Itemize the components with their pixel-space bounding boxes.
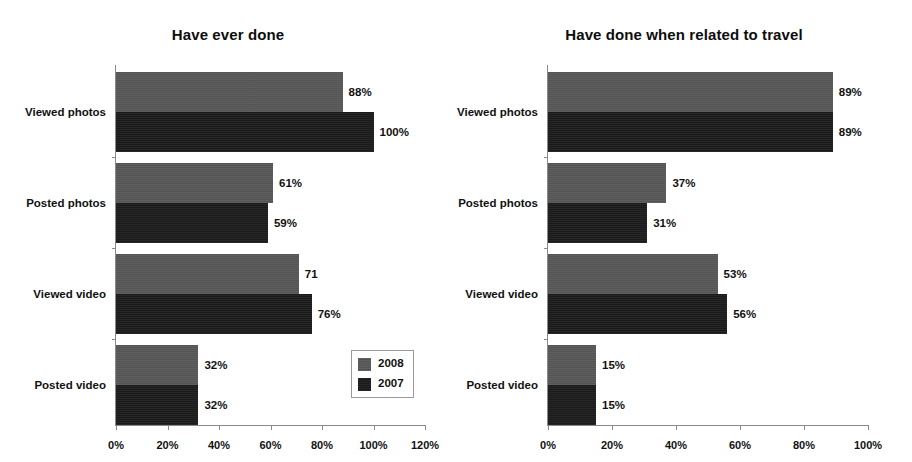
- bar-value-label: 31%: [653, 218, 676, 230]
- chart-title: Have ever done: [0, 26, 456, 43]
- chart-panel-have-ever-done: Have ever done 0%20%40%60%80%100%120%88%…: [0, 0, 456, 462]
- bar-2007-viewed-video[interactable]: [116, 294, 312, 334]
- bar-value-label: 76%: [318, 309, 341, 321]
- bar-2008-viewed-video[interactable]: [548, 254, 718, 294]
- category-label-posted-photos: Posted photos: [26, 198, 106, 210]
- bar-value-label: 32%: [204, 360, 227, 372]
- x-axis-tick-label: 0%: [108, 439, 124, 451]
- bar-value-label: 15%: [602, 400, 625, 412]
- bar-value-label: 100%: [380, 127, 409, 139]
- category-label-posted-video: Posted video: [34, 380, 106, 392]
- bar-value-label: 53%: [724, 269, 747, 281]
- x-axis-tick: [740, 425, 741, 430]
- x-axis-tick: [868, 425, 869, 430]
- bar-2007-posted-video[interactable]: [548, 385, 596, 425]
- bar-group: 89%89%: [548, 72, 868, 152]
- bar-2008-posted-video[interactable]: [116, 345, 198, 385]
- legend: 2008 2007: [351, 350, 414, 398]
- bar-value-label: 15%: [602, 360, 625, 372]
- category-label-viewed-video: Viewed video: [465, 289, 538, 301]
- x-axis-tick: [612, 425, 613, 430]
- x-axis-tick: [322, 425, 323, 430]
- x-axis-tick-label: 120%: [411, 439, 439, 451]
- y-axis-tick: [112, 248, 116, 249]
- x-axis-tick-label: 60%: [259, 439, 281, 451]
- bar-value-label: 37%: [672, 178, 695, 190]
- category-label-viewed-photos: Viewed photos: [457, 107, 538, 119]
- bar-2008-posted-video[interactable]: [548, 345, 596, 385]
- legend-label-2008: 2008: [378, 358, 404, 370]
- x-axis-tick: [374, 425, 375, 430]
- bar-value-label: 89%: [839, 127, 862, 139]
- bar-2008-viewed-photos[interactable]: [116, 72, 343, 112]
- y-axis-tick: [544, 248, 548, 249]
- bar-2008-posted-photos[interactable]: [548, 163, 666, 203]
- y-axis-tick: [544, 339, 548, 340]
- bar-value-label: 89%: [839, 87, 862, 99]
- bar-2008-posted-photos[interactable]: [116, 163, 273, 203]
- x-axis-tick-label: 40%: [208, 439, 230, 451]
- chart-panel-have-done-when-related-to-travel: Have done when related to travel 0%20%40…: [456, 0, 912, 462]
- bar-group: 53%56%: [548, 254, 868, 334]
- y-axis-tick: [112, 339, 116, 340]
- bar-2007-posted-photos[interactable]: [548, 203, 647, 243]
- x-axis-tick-label: 100%: [359, 439, 387, 451]
- x-axis-tick-label: 60%: [729, 439, 751, 451]
- x-axis-tick-label: 20%: [601, 439, 623, 451]
- bar-value-label: 56%: [733, 309, 756, 321]
- x-axis-tick-label: 40%: [665, 439, 687, 451]
- x-axis-tick-label: 20%: [156, 439, 178, 451]
- legend-swatch-2008-icon: [358, 358, 371, 371]
- plot-area: 0%20%40%60%80%100%89%89%37%31%53%56%15%1…: [548, 65, 868, 425]
- bar-group: 88%100%: [116, 72, 425, 152]
- bar-value-label: 59%: [274, 218, 297, 230]
- x-axis-tick: [116, 425, 117, 430]
- bar-value-label: 88%: [349, 87, 372, 99]
- x-axis-tick: [219, 425, 220, 430]
- bar-2007-viewed-photos[interactable]: [548, 112, 833, 152]
- bar-value-label: 61%: [279, 178, 302, 190]
- bar-value-label: 71: [305, 269, 318, 281]
- bar-2008-viewed-video[interactable]: [116, 254, 299, 294]
- bar-2008-viewed-photos[interactable]: [548, 72, 833, 112]
- y-axis-tick: [544, 157, 548, 158]
- x-axis-tick: [271, 425, 272, 430]
- bar-group: 37%31%: [548, 163, 868, 243]
- x-axis-tick-label: 0%: [540, 439, 556, 451]
- bar-group: 7176%: [116, 254, 425, 334]
- x-axis-tick: [676, 425, 677, 430]
- x-axis-tick: [804, 425, 805, 430]
- x-axis-tick-label: 100%: [854, 439, 882, 451]
- x-axis-tick-label: 80%: [793, 439, 815, 451]
- bar-group: 15%15%: [548, 345, 868, 425]
- category-label-posted-photos: Posted photos: [458, 198, 538, 210]
- bar-value-label: 32%: [204, 400, 227, 412]
- x-axis-line: [547, 425, 869, 426]
- legend-swatch-2007-icon: [358, 378, 371, 391]
- x-axis-tick-label: 80%: [311, 439, 333, 451]
- x-axis-tick: [548, 425, 549, 430]
- chart-title: Have done when related to travel: [456, 26, 912, 43]
- bar-group: 61%59%: [116, 163, 425, 243]
- y-axis-tick: [112, 157, 116, 158]
- legend-row-2008: 2008: [358, 356, 404, 372]
- category-label-viewed-photos: Viewed photos: [25, 107, 106, 119]
- legend-row-2007: 2007: [358, 376, 404, 392]
- bar-2007-viewed-photos[interactable]: [116, 112, 374, 152]
- legend-label-2007: 2007: [378, 378, 404, 390]
- bar-2007-viewed-video[interactable]: [548, 294, 727, 334]
- bar-2007-posted-photos[interactable]: [116, 203, 268, 243]
- x-axis-tick: [168, 425, 169, 430]
- category-label-viewed-video: Viewed video: [33, 289, 106, 301]
- bar-2007-posted-video[interactable]: [116, 385, 198, 425]
- x-axis-tick: [425, 425, 426, 430]
- category-label-posted-video: Posted video: [466, 380, 538, 392]
